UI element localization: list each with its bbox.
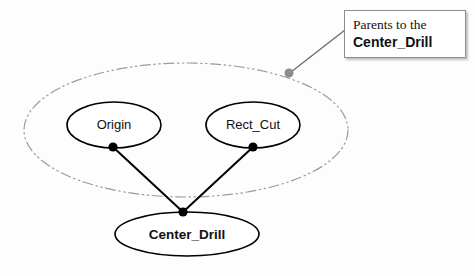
annotation-anchor-dot — [285, 69, 294, 78]
annotation-text-line-1: Parents to the — [353, 16, 465, 33]
node-center-drill-label: Center_Drill — [149, 227, 226, 242]
edge-origin-to-center-drill — [113, 147, 183, 212]
node-origin-label: Origin — [97, 117, 132, 132]
parents-relationship-diagram: Origin Rect_Cut Center_Drill Parents to … — [0, 0, 475, 276]
port-dot-center-drill — [178, 207, 187, 216]
annotation-leader-line — [291, 30, 345, 72]
annotation-callout-box: Parents to the Center_Drill — [344, 10, 466, 58]
port-dot-rect-cut — [248, 142, 257, 151]
edge-rect-cut-to-center-drill — [183, 147, 253, 212]
port-dot-origin — [108, 142, 117, 151]
annotation-text-line-2: Center_Drill — [353, 33, 465, 52]
node-rect-cut-label: Rect_Cut — [226, 117, 281, 132]
